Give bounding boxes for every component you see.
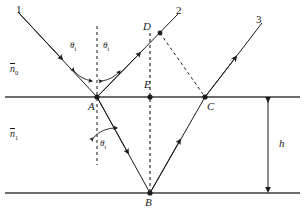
angle-arc-incident: [74, 71, 92, 81]
theta-sub-incident: i: [74, 45, 76, 52]
point-dot-E: [147, 94, 152, 99]
point-dot-D: [158, 31, 163, 36]
n-sub-medium-1: 1: [15, 134, 18, 141]
theta-sub-reflected: i: [107, 45, 109, 52]
ray-label-2: 2: [176, 5, 182, 16]
ray-label-3: 3: [256, 14, 262, 25]
ray-2-arrow: [97, 53, 140, 97]
point-dot-B: [147, 190, 152, 195]
ray-label-1: 1: [16, 4, 22, 15]
angle-label-theta-i-reflected: θi: [103, 41, 109, 52]
point-label-E: E: [144, 79, 151, 90]
point-dot-A: [94, 94, 99, 99]
n-sub-medium-0: 0: [15, 69, 18, 76]
theta-sub-transmitted: t: [104, 143, 106, 150]
point-dot-C: [202, 94, 207, 99]
point-label-C: C: [207, 101, 214, 112]
ray-3-arrow: [205, 57, 236, 97]
point-label-B: B: [145, 197, 152, 208]
thickness-label-h: h: [279, 138, 285, 149]
ray-1-arrow: [18, 12, 62, 59]
refractive-index-label-n0: n0: [10, 63, 18, 77]
angle-label-theta-i-incident: θi: [70, 41, 76, 52]
diagram-canvas: [0, 0, 307, 218]
point-label-D: D: [143, 21, 151, 32]
point-label-A: A: [88, 101, 95, 112]
optics-ray-diagram: 1 2 3 A B C D E θi θi θt n0 n1 h: [0, 0, 307, 218]
ray-B-to-C-arrow: [150, 140, 180, 193]
angle-label-theta-t: θt: [100, 139, 106, 150]
refractive-index-label-n1: n1: [10, 128, 18, 142]
wavefront-dashed-D-to-C: [160, 33, 205, 97]
